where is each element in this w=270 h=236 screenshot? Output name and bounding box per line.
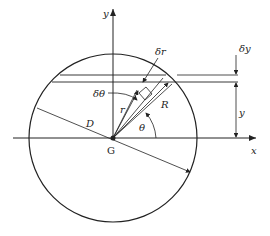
delta-r-label: δr <box>155 46 167 57</box>
y-axis-label: y <box>102 8 109 19</box>
delta-y-label: δy <box>239 43 251 54</box>
diameter-label: D <box>85 118 94 129</box>
circle-section-diagram: y x G D R r δr δθ θ δy y <box>0 0 270 236</box>
x-axis-label: x <box>251 145 257 156</box>
delta-r-arrow <box>143 58 158 82</box>
center-label: G <box>107 145 115 156</box>
delta-theta-label: δθ <box>93 88 105 99</box>
center-point <box>111 136 116 141</box>
theta-arc <box>146 113 156 138</box>
y-dim-label: y <box>238 107 245 118</box>
theta-label: θ <box>139 122 145 133</box>
radius-R-label: R <box>160 99 169 110</box>
